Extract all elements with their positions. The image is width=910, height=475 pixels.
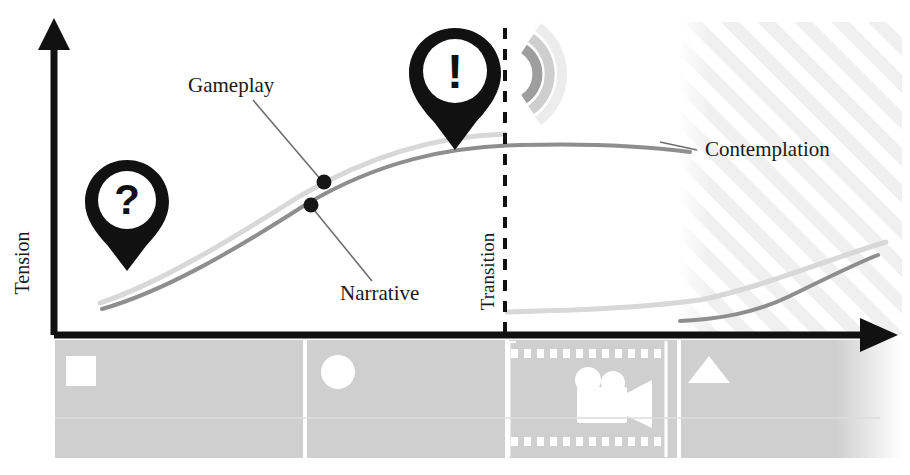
axis-label-tension: Tension	[12, 231, 32, 294]
label-narrative: Narrative	[340, 283, 419, 304]
leader-line-narrative	[310, 205, 372, 281]
label-gameplay: Gameplay	[188, 75, 274, 96]
axes-annotations-layer: ? !	[0, 0, 910, 475]
diagram-canvas: ? ! Gameplay Narrative Contemplation Ten…	[0, 0, 910, 475]
y-axis	[38, 18, 70, 335]
marker-dot-gameplay	[317, 175, 332, 190]
label-transition: Transition	[478, 233, 497, 310]
marker-dot-narrative	[304, 198, 319, 213]
svg-text:?: ?	[114, 176, 140, 223]
question-mark-pin-icon: ?	[85, 160, 169, 271]
leader-line-gameplay	[253, 100, 322, 181]
x-axis	[54, 318, 898, 352]
label-contemplation: Contemplation	[705, 139, 830, 160]
signal-waves-icon	[524, 27, 562, 121]
exclamation-mark-pin-icon: !	[409, 28, 501, 150]
svg-text:!: !	[447, 45, 463, 98]
leader-line-contemplation	[660, 142, 697, 150]
